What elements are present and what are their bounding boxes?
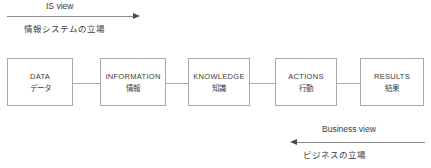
connector-actions-results (334, 83, 363, 84)
node-information[interactable]: INFORMATION 情報 (100, 58, 166, 106)
node-information-label-ja: 情報 (126, 83, 140, 94)
business-view-label-ja: ビジネスの立場 (303, 150, 366, 160)
node-actions[interactable]: ACTIONS 行動 (275, 58, 337, 106)
node-actions-label-ja: 行動 (299, 83, 313, 94)
is-view-label-ja: 情報システムの立場 (24, 24, 105, 34)
node-results-label-en: RESULTS (374, 71, 410, 82)
business-view-arrow-line (297, 142, 425, 143)
value-chain-diagram: IS view 情報システムの立場 DATA データ INFORMATION 情… (0, 0, 431, 168)
is-view-arrow-head-icon (133, 13, 140, 19)
node-data[interactable]: DATA データ (7, 58, 73, 106)
node-results-label-ja: 結果 (385, 83, 399, 94)
node-knowledge[interactable]: KNOWLEDGE 知識 (188, 58, 250, 106)
node-results[interactable]: RESULTS 結果 (360, 58, 424, 106)
node-information-label-en: INFORMATION (105, 71, 160, 82)
node-knowledge-label-en: KNOWLEDGE (193, 71, 244, 82)
connector-information-knowledge (163, 83, 191, 84)
is-view-label-en: IS view (46, 1, 73, 11)
connector-knowledge-actions (247, 83, 278, 84)
is-view-arrow-line (7, 16, 135, 17)
business-view-arrow-head-icon (290, 139, 297, 145)
node-knowledge-label-ja: 知識 (212, 83, 226, 94)
connector-data-information (70, 83, 103, 84)
node-data-label-en: DATA (30, 71, 50, 82)
business-view-label-en: Business view (322, 124, 376, 134)
node-data-label-ja: データ (30, 83, 51, 94)
node-actions-label-en: ACTIONS (288, 71, 323, 82)
